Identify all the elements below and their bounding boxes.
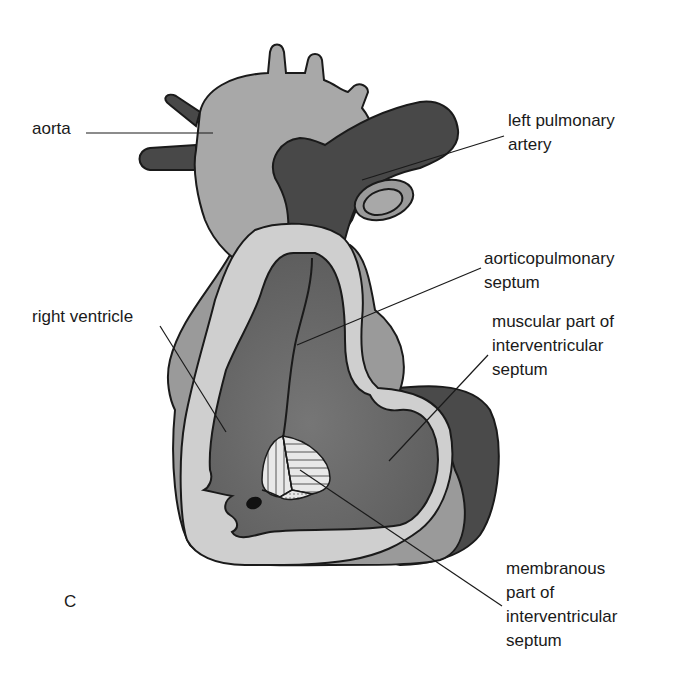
aortic-branches xyxy=(140,95,201,170)
panel-letter-text: C xyxy=(64,590,76,614)
label-aorta-line: aorta xyxy=(32,117,71,141)
label-line: septum xyxy=(492,358,614,382)
label-line: muscular part of xyxy=(492,310,614,334)
label-line: septum xyxy=(506,629,618,653)
label-line: interventricular xyxy=(492,334,614,358)
label-line: interventricular xyxy=(506,605,618,629)
label-membranous-part: membranous part of interventricular sept… xyxy=(506,557,618,653)
label-left-pulmonary-artery: left pulmonary artery xyxy=(508,109,615,157)
label-right-ventricle: right ventricle xyxy=(32,305,133,329)
label-aorticopulmonary-septum: aorticopulmonary septum xyxy=(484,247,614,295)
label-line: aorticopulmonary xyxy=(484,247,614,271)
label-aorta: aorta xyxy=(32,117,71,141)
label-line: right ventricle xyxy=(32,305,133,329)
label-line: part of xyxy=(506,581,618,605)
label-line: membranous xyxy=(506,557,618,581)
label-line: septum xyxy=(484,271,614,295)
label-line: left pulmonary xyxy=(508,109,615,133)
label-muscular-part: muscular part of interventricular septum xyxy=(492,310,614,382)
label-line: artery xyxy=(508,133,615,157)
panel-letter: C xyxy=(64,590,76,614)
